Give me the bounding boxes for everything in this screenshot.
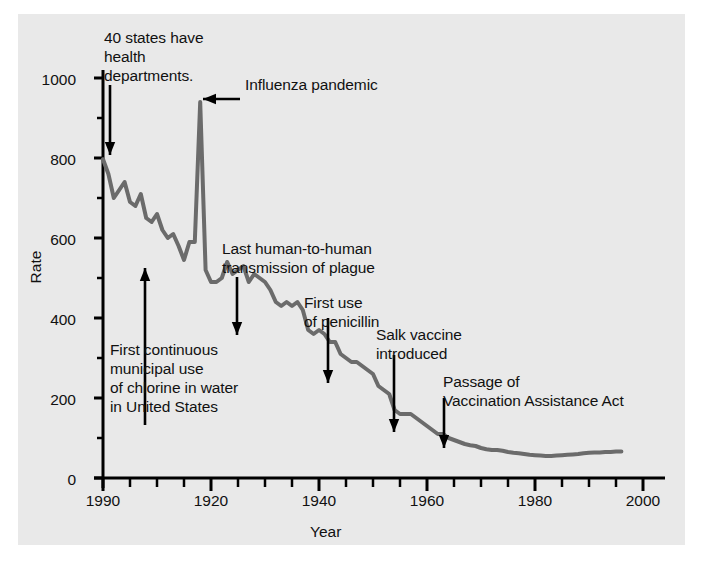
axes-group [94, 70, 665, 491]
x-tick-label: 1940 [289, 492, 349, 510]
annotation-salk-vaccine: Salk vaccine introduced [376, 325, 462, 363]
figure-container: Rate Year 1000 800 600 400 200 0 1990 19… [0, 0, 703, 576]
annotation-plague-transmission: Last human-to-human transmission of plag… [222, 239, 375, 277]
annotation-influenza-pandemic: Influenza pandemic [245, 75, 378, 94]
y-tick-label: 0 [24, 471, 76, 489]
annotation-chlorine-water: First continuous municipal use of chlori… [110, 340, 238, 416]
annotation-vaccination-act: Passage of Vaccination Assistance Act [443, 372, 624, 410]
y-tick-label: 400 [24, 311, 76, 329]
x-tick-label: 1920 [181, 492, 241, 510]
annotation-health-departments: 40 states have health departments. [104, 28, 203, 85]
annotation-penicillin: First use of penicillin [304, 293, 379, 331]
x-tick-label: 1960 [397, 492, 457, 510]
y-tick-label: 1000 [24, 71, 76, 89]
x-tick-label: 1980 [505, 492, 565, 510]
y-tick-label: 600 [24, 231, 76, 249]
x-tick-label: 2000 [613, 492, 673, 510]
x-tick-label: 1990 [73, 492, 133, 510]
x-axis-label: Year [310, 523, 341, 541]
y-tick-label: 800 [24, 151, 76, 169]
y-tick-label: 200 [24, 391, 76, 409]
